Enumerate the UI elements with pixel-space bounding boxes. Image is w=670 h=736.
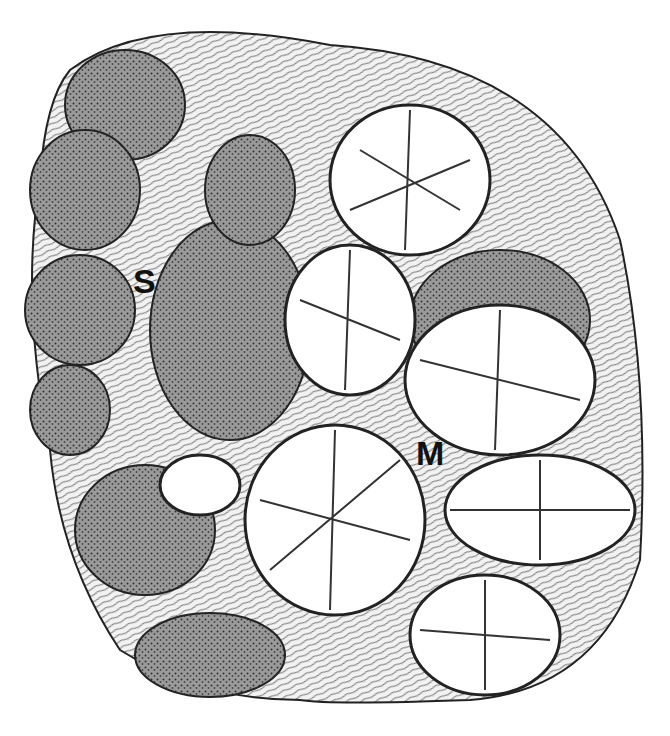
- mucous-label: M: [416, 436, 444, 470]
- serous-label: S: [133, 264, 156, 298]
- histology-figure: S M: [0, 0, 670, 736]
- gland-section-drawing: [0, 0, 670, 736]
